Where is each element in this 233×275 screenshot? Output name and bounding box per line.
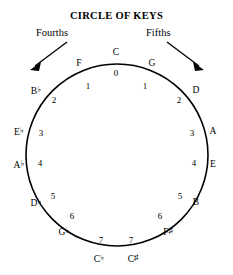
- node-a-label: A: [210, 127, 217, 137]
- sharp-icon: ♯: [169, 225, 173, 235]
- node-d-accidental-count: 2: [177, 96, 182, 105]
- node-g-accidental-count: 1: [143, 82, 148, 91]
- flat-icon: ♭: [20, 158, 24, 168]
- flat-icon: ♭: [20, 125, 24, 135]
- node-a-flat-label: A♭: [14, 159, 25, 170]
- node-d-label: D: [193, 86, 200, 96]
- node-d-flat-accidental-count: 5: [51, 192, 56, 201]
- circle-of-keys-diagram: CIRCLE OF KEYS Fourths Fifths C0G1D2A3E4…: [0, 0, 233, 275]
- node-e-flat-label: E♭: [14, 126, 24, 137]
- flat-icon: ♭: [37, 84, 41, 94]
- node-f-sharp-label: F♯: [163, 226, 173, 237]
- flat-icon: ♭: [100, 252, 104, 262]
- flat-icon: ♭: [65, 225, 69, 235]
- node-c-sharp-label: C♯: [128, 253, 139, 264]
- node-c-flat-accidental-count: 7: [99, 236, 104, 245]
- node-b-label: B: [193, 198, 199, 208]
- arrow-down-left-icon: [30, 42, 67, 71]
- node-g-label: G: [149, 59, 156, 69]
- node-b-flat-label: B♭: [31, 85, 41, 96]
- flat-icon: ♭: [37, 196, 41, 206]
- diagram-canvas: [0, 0, 233, 275]
- circle-ring: [26, 64, 208, 246]
- node-c-label: C: [113, 48, 119, 58]
- node-a-flat-accidental-count: 4: [38, 159, 43, 168]
- node-e-label: E: [210, 160, 216, 170]
- node-b-flat-accidental-count: 2: [52, 96, 57, 105]
- node-a-accidental-count: 3: [190, 129, 195, 138]
- sharp-icon: ♯: [134, 252, 138, 262]
- node-e-accidental-count: 4: [192, 159, 197, 168]
- node-g-flat-accidental-count: 6: [70, 212, 75, 221]
- node-c-sharp-accidental-count: 7: [129, 236, 134, 245]
- node-e-flat-accidental-count: 3: [39, 129, 44, 138]
- node-f-accidental-count: 1: [86, 82, 91, 91]
- node-b-accidental-count: 5: [178, 192, 183, 201]
- node-c-flat-label: C♭: [94, 253, 104, 264]
- node-g-flat-label: G♭: [59, 226, 70, 237]
- node-f-label: F: [76, 59, 81, 69]
- node-d-flat-label: D♭: [31, 197, 42, 208]
- arrow-down-right-icon: [167, 42, 204, 71]
- node-f-sharp-accidental-count: 6: [158, 212, 163, 221]
- node-c-accidental-count: 0: [114, 69, 119, 78]
